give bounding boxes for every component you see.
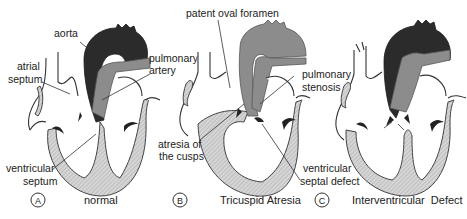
label-vsd-2: septal defect bbox=[300, 175, 360, 187]
leader-patent-oval-foramen bbox=[218, 20, 230, 88]
left-atrium-outline bbox=[118, 77, 160, 100]
label-pulmonary-artery-2: artery bbox=[149, 64, 177, 76]
label-patent-oval-foramen: patent oval foramen bbox=[186, 7, 279, 19]
panel-a-normal: aorta atrial septum pulmonary artery ven… bbox=[6, 24, 199, 207]
label-pulmonary-stenosis-1: pulmonary bbox=[302, 68, 352, 80]
valve-cusp bbox=[386, 116, 394, 126]
leader-atrial-septum bbox=[42, 82, 70, 94]
valve-cusp bbox=[356, 122, 368, 130]
valve-cusp bbox=[430, 120, 444, 132]
heart-defects-diagram: aorta atrial septum pulmonary artery ven… bbox=[0, 0, 467, 219]
label-atresia-1: atresia of bbox=[158, 138, 201, 150]
valve-cusp bbox=[78, 112, 82, 122]
left-atrium-outline bbox=[420, 75, 466, 98]
caption-tricuspid-atresia: Tricuspid Atresia bbox=[220, 194, 302, 206]
panel-b-tricuspid-atresia: patent oval foramen pulmonary stenosis a… bbox=[158, 7, 360, 207]
caption-normal: normal bbox=[84, 194, 118, 206]
label-atrial-septum-2: septum bbox=[8, 73, 43, 85]
label-aorta: aorta bbox=[54, 27, 78, 39]
caption-interventricular-defect: Interventricular Defect bbox=[352, 194, 463, 206]
valve-cusp bbox=[124, 122, 138, 132]
label-vsd-1: ventricular bbox=[303, 162, 352, 174]
label-pulmonary-artery-1: pulmonary bbox=[149, 52, 199, 64]
panel-letter-b: B bbox=[177, 196, 183, 206]
label-ventricular-septum-1: ventricular bbox=[6, 162, 55, 174]
label-pulmonary-stenosis-2: stenosis bbox=[302, 81, 341, 93]
atretic-cusp bbox=[254, 117, 264, 122]
ventricle-myocardium bbox=[346, 100, 454, 196]
valve-cusp bbox=[404, 114, 410, 124]
shunt-arrow bbox=[384, 122, 404, 130]
label-atrial-septum-1: atrial bbox=[17, 60, 40, 72]
panel-letter-a: A bbox=[35, 196, 41, 206]
label-atresia-2: the cusps bbox=[159, 150, 204, 162]
label-ventricular-septum-2: septum bbox=[23, 175, 58, 187]
panel-letter-c: C bbox=[319, 196, 326, 206]
